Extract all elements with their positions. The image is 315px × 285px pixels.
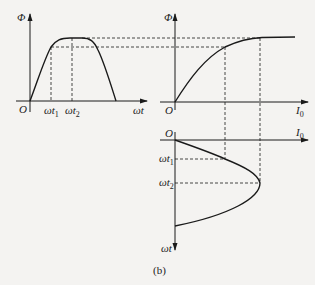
tick-base: ωt (159, 176, 170, 188)
right-top-x-axis-label: I0 (296, 105, 304, 119)
left-y-axis-label: Φ (17, 12, 25, 23)
axis-sub: 0 (300, 110, 304, 119)
left-x-axis-label: ωt (133, 105, 144, 116)
tick-base: ωt (65, 104, 76, 116)
right-bottom-tick-wt1: ωt1 (159, 153, 174, 167)
tick-base: ωt (44, 104, 55, 116)
tick-sub: 2 (76, 110, 80, 119)
right-bottom-origin-label: O (165, 128, 173, 139)
right-bottom-tick-wt2: ωt2 (159, 177, 174, 191)
left-origin-label: O (19, 104, 27, 115)
tick-sub: 1 (170, 158, 174, 167)
left-tick-wt1: ωt1 (44, 105, 59, 119)
right-bottom-y-axis-label: ωt (161, 243, 172, 254)
left-tick-wt2: ωt2 (65, 105, 80, 119)
figure-caption: (b) (153, 264, 166, 276)
right-top-y-axis-label: Φ (164, 12, 172, 23)
axis-sub: 0 (300, 132, 304, 141)
right-bottom-plot (160, 132, 308, 250)
right-bottom-x-axis-label: I0 (296, 127, 304, 141)
right-top-origin-label: O (165, 105, 173, 116)
diagram-canvas (0, 0, 315, 285)
right-top-plot (160, 14, 308, 183)
tick-sub: 1 (55, 110, 59, 119)
tick-sub: 2 (170, 182, 174, 191)
tick-base: ωt (159, 152, 170, 164)
left-plot (16, 14, 260, 112)
